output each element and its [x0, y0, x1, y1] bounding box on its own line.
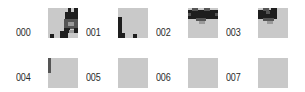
tile-pixel-block — [267, 21, 273, 24]
tile-pixel-block — [215, 13, 218, 16]
tile-label-004: 004 — [16, 73, 30, 83]
tile-pixel-block — [192, 8, 198, 11]
tile-label-003: 003 — [226, 28, 240, 38]
tile-pixel-block — [60, 31, 68, 38]
tile-pixel-block — [68, 22, 74, 26]
tile-label-001: 001 — [86, 28, 100, 38]
tile-pixel-block — [118, 33, 125, 38]
tile-pixel-block — [271, 8, 277, 13]
tile-pixel-block — [204, 8, 210, 11]
tile-pixel-block — [199, 21, 205, 24]
tile-pixel-block — [50, 34, 54, 38]
tile-007[interactable] — [258, 58, 288, 88]
tile-pixel-block — [69, 30, 74, 33]
tile-006[interactable] — [188, 58, 218, 88]
tile-004[interactable] — [48, 58, 78, 88]
tile-pixel-block — [266, 11, 270, 14]
tile-label-000: 000 — [16, 28, 30, 38]
tile-003[interactable] — [258, 8, 288, 38]
tile-label-006: 006 — [156, 73, 170, 83]
tile-pixel-block — [48, 58, 51, 73]
tile-pixel-block — [188, 13, 191, 16]
tile-002[interactable] — [188, 8, 218, 38]
tile-label-002: 002 — [156, 28, 170, 38]
tile-005[interactable] — [118, 58, 148, 88]
tile-label-005: 005 — [86, 73, 100, 83]
tile-label-007: 007 — [226, 73, 240, 83]
tile-000[interactable] — [48, 8, 78, 38]
tile-pixel-block — [74, 28, 78, 33]
tile-001[interactable] — [118, 8, 148, 38]
tile-pixel-block — [133, 34, 137, 38]
